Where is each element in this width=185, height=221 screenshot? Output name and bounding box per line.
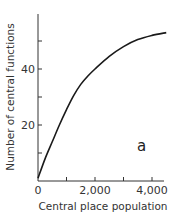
x-axis-title: Central place population <box>38 200 167 212</box>
x-tick-label: 0 <box>35 184 42 197</box>
chart: 2040 02,0004,000 a Central place populat… <box>0 0 185 221</box>
y-axis-title: Number of central functions <box>4 23 16 170</box>
y-tick-label: 40 <box>21 63 35 76</box>
panel-label: a <box>137 137 146 155</box>
y-tick-label: 20 <box>21 119 35 132</box>
x-tick-label: 4,000 <box>136 184 168 197</box>
data-line <box>38 33 166 179</box>
x-tick-label: 2,000 <box>79 184 111 197</box>
x-axis: 02,0004,000 <box>35 177 168 197</box>
y-axis: 2040 <box>21 14 42 181</box>
